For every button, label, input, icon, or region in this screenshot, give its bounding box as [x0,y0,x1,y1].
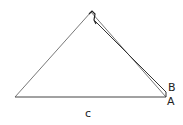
left-side [15,12,91,97]
label-c: c [85,108,91,119]
label-a: A [167,96,175,107]
triangle-figure [0,0,183,125]
right-side-to-B [94,20,166,92]
apex-fold [89,11,96,24]
label-b: B [168,82,176,93]
